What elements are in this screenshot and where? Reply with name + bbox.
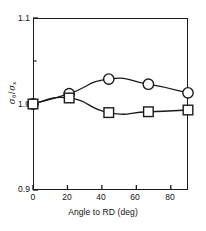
y-axis-title-denominator: σ [7, 85, 17, 91]
y-axis-title-numerator-sub: θ [11, 95, 17, 98]
y-axis-title-denominator-sub: x [11, 82, 17, 85]
x-tick-label-20: 20 [56, 192, 78, 202]
plot-frame [33, 18, 188, 190]
x-tick-label-80: 80 [159, 192, 181, 202]
x-tick-label-60: 60 [124, 192, 146, 202]
x-tick-label-40: 40 [90, 192, 112, 202]
x-axis-title: Angle to RD (deg) [0, 207, 206, 217]
y-axis-title-slash: / [7, 91, 17, 95]
y-axis-title-numerator: σ [7, 98, 17, 104]
chart-figure: 1.1 1.0 0.9 0 20 40 60 80 Angle to RD (d… [0, 0, 206, 231]
y-tick-label-1.1: 1.1 [4, 13, 30, 23]
x-tick-label-0: 0 [22, 192, 44, 202]
y-axis-title: σθ/σx [7, 68, 17, 118]
